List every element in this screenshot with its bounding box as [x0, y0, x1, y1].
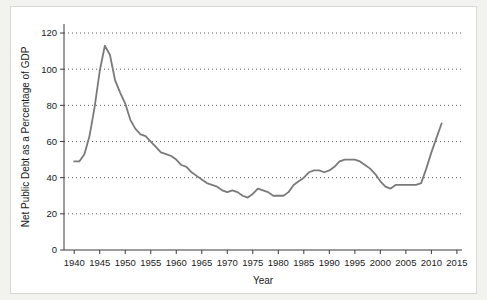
- x-axis-tick-label: 2005: [395, 257, 416, 268]
- chart-plot-area: 0204060801001201940194519501955196019651…: [11, 7, 478, 295]
- x-axis-tick-label: 1980: [268, 257, 289, 268]
- y-axis-tick-label: 120: [41, 27, 57, 38]
- x-axis-tick-label: 1960: [166, 257, 187, 268]
- x-axis-tick-label: 1975: [242, 257, 263, 268]
- plot-background: [64, 24, 462, 250]
- x-axis-tick-label: 2000: [370, 257, 391, 268]
- y-axis-title: Net Public Debt as a Percentage of GDP: [20, 46, 31, 227]
- y-axis-tick-label: 20: [46, 208, 57, 219]
- x-axis-tick-label: 1985: [293, 257, 314, 268]
- x-axis-tick-label: 1950: [115, 257, 136, 268]
- x-axis-tick-label: 1940: [64, 257, 85, 268]
- x-axis-tick-label: 1990: [319, 257, 340, 268]
- y-axis-tick-label: 0: [52, 244, 57, 255]
- chart-card: 0204060801001201940194519501955196019651…: [10, 6, 477, 294]
- x-axis-tick-label: 1955: [140, 257, 161, 268]
- y-axis-tick-label: 80: [46, 100, 57, 111]
- x-axis-tick-label: 2015: [446, 257, 467, 268]
- y-axis-tick-label: 60: [46, 136, 57, 147]
- x-axis-tick-label: 1965: [191, 257, 212, 268]
- y-axis-tick-label: 100: [41, 64, 57, 75]
- line-chart: 0204060801001201940194519501955196019651…: [11, 7, 478, 295]
- x-axis-tick-label: 1995: [344, 257, 365, 268]
- x-axis-tick-label: 1945: [89, 257, 110, 268]
- x-axis-tick-label: 2010: [421, 257, 442, 268]
- x-axis-title: Year: [253, 275, 274, 286]
- y-axis-tick-label: 40: [46, 172, 57, 183]
- x-axis-tick-label: 1970: [217, 257, 238, 268]
